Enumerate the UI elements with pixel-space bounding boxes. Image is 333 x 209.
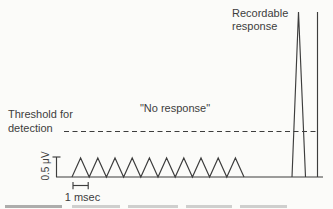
stimulus-train bbox=[72, 158, 244, 177]
no-response-label: "No response" bbox=[120, 101, 230, 115]
recordable-response-line1: Recordable bbox=[232, 7, 288, 20]
time-scale-label: 1 msec bbox=[55, 190, 110, 204]
caption-smudge bbox=[240, 205, 287, 208]
recordable-response-line2: response bbox=[232, 20, 288, 33]
threshold-label-line2: detection bbox=[8, 121, 73, 135]
time-scale-bracket bbox=[73, 182, 88, 189]
caption-smudge bbox=[186, 205, 232, 208]
evoked-response-figure: Threshold for detection "No response" Re… bbox=[0, 0, 333, 209]
caption-smudge bbox=[128, 205, 178, 208]
recordable-response-label: Recordable response bbox=[232, 7, 288, 33]
threshold-label: Threshold for detection bbox=[8, 107, 73, 135]
amplitude-scale-label: 0.5 μV bbox=[39, 151, 53, 180]
response-spike bbox=[292, 12, 306, 177]
cropped-caption-remnant bbox=[0, 205, 333, 209]
caption-smudge bbox=[72, 205, 120, 208]
threshold-label-line1: Threshold for bbox=[8, 107, 73, 121]
caption-smudge bbox=[5, 205, 62, 208]
